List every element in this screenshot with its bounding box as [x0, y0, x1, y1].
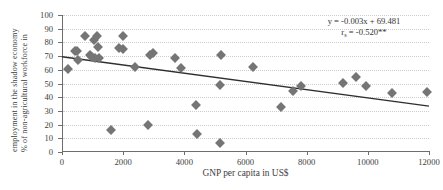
x-axis-tick-label: 6000	[237, 157, 254, 167]
gridline	[63, 125, 429, 126]
data-point	[215, 138, 225, 148]
data-point	[143, 120, 153, 130]
y-axis-tick-label: 90	[44, 24, 53, 34]
y-axis-tick: 80	[58, 42, 62, 43]
x-axis-title: GNP per capita in US$	[62, 168, 429, 178]
gridline	[63, 84, 429, 85]
x-axis-tick	[429, 151, 430, 155]
gridline	[63, 70, 429, 71]
x-axis-tick-label: 12000	[418, 157, 439, 167]
gridline	[63, 111, 429, 112]
data-point	[296, 81, 306, 91]
y-axis-tick: 40	[58, 97, 62, 98]
data-point	[170, 53, 180, 63]
data-point	[63, 64, 73, 74]
y-axis-tick-label: 20	[44, 120, 53, 130]
data-point	[176, 63, 186, 73]
x-axis-tick	[368, 151, 369, 155]
y-axis-tick-label: 80	[44, 37, 53, 47]
gridline	[63, 97, 429, 98]
y-axis-tick: 60	[58, 70, 62, 71]
correlation-coefficient: rs = -0.520**	[296, 27, 432, 38]
y-axis-tick-label: 70	[44, 51, 53, 61]
regression-annotation: y = -0.003x + 69.481 rs = -0.520**	[296, 16, 432, 38]
x-axis-tick	[246, 151, 247, 155]
y-axis-tick: 90	[58, 29, 62, 30]
data-point	[351, 72, 361, 82]
x-axis-tick	[123, 151, 124, 155]
y-axis-tick: 70	[58, 56, 62, 57]
x-axis-tick	[307, 151, 308, 155]
y-axis-tick: 20	[58, 125, 62, 126]
y-axis-tick: 10	[58, 138, 62, 139]
x-axis-tick-label: 10000	[357, 157, 378, 167]
y-axis-tick: 30	[58, 111, 62, 112]
y-axis-title-line1: % of non-agricultural workforce in	[20, 34, 29, 152]
y-axis-tick-label: 40	[44, 92, 53, 102]
y-axis-tick-label: 60	[44, 65, 53, 75]
data-point	[338, 78, 348, 88]
y-axis-title-line2: employment in the shadow economy	[10, 28, 19, 152]
y-axis-tick-label: 10	[44, 133, 53, 143]
gridline	[63, 138, 429, 139]
y-axis-tick-label: 50	[44, 79, 53, 89]
y-axis-tick-label: 30	[44, 106, 53, 116]
y-axis-tick: 50	[58, 84, 62, 85]
x-axis-tick-label: 0	[60, 157, 64, 167]
data-point	[361, 81, 371, 91]
x-axis-tick-label: 2000	[115, 157, 132, 167]
y-axis-title: % of non-agricultural workforce in emplo…	[0, 0, 30, 160]
x-axis-tick	[62, 151, 63, 155]
gridline	[63, 56, 429, 57]
data-point	[93, 42, 103, 52]
data-point	[191, 100, 201, 110]
x-axis-tick-label: 4000	[176, 157, 193, 167]
y-axis-tick: 100	[58, 15, 62, 16]
regression-equation: y = -0.003x + 69.481	[296, 16, 432, 27]
scatter-chart-figure: % of non-agricultural workforce in emplo…	[0, 0, 443, 190]
x-axis-tick-label: 8000	[298, 157, 315, 167]
data-point	[118, 31, 128, 41]
y-axis-tick-label: 100	[40, 10, 53, 20]
data-point	[216, 50, 226, 60]
x-axis-tick	[184, 151, 185, 155]
data-point	[423, 87, 433, 97]
correlation-value: = -0.520**	[347, 27, 387, 37]
data-point	[106, 125, 116, 135]
y-axis-tick-label: 0	[49, 147, 53, 157]
correlation-subscript: s	[344, 31, 347, 38]
data-point	[215, 80, 225, 90]
